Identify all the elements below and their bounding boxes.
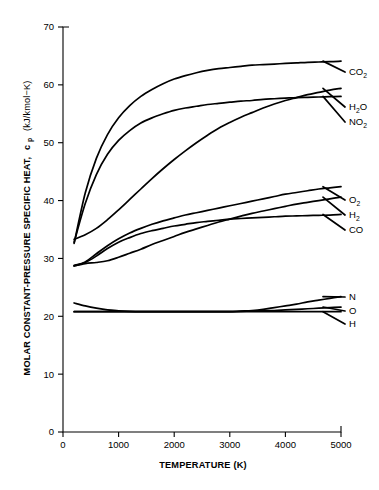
series-label-base: NO	[349, 116, 363, 127]
series-label-base: H	[349, 318, 356, 329]
leader-co	[323, 214, 345, 230]
series-leader-lines	[323, 61, 345, 324]
x-axis-title: TEMPERATURE (K)	[159, 460, 247, 470]
leader-h	[323, 312, 345, 324]
x-tick-label: 3000	[219, 439, 240, 450]
series-label-o: O	[349, 305, 356, 316]
curve-no2	[74, 96, 341, 242]
series-label-subscript: 2	[356, 200, 360, 207]
curve-h2	[74, 197, 341, 266]
series-label-base: CO	[349, 224, 363, 235]
series-label-co: CO	[349, 224, 363, 235]
svg-text:MOLAR CONSTANT-PRESSURE SPECIF: MOLAR CONSTANT-PRESSURE SPECIFIC HEAT, c…	[22, 81, 34, 376]
y-tick-label: 0	[49, 426, 54, 437]
series-label-no2: NO2	[349, 116, 367, 128]
data-curves	[74, 61, 341, 312]
x-tick-marks	[63, 432, 341, 437]
series-label-co2: CO2	[349, 66, 367, 78]
y-tick-label: 30	[43, 253, 54, 264]
chart-figure: 010203040506070 010002000300040005000 CO…	[0, 0, 379, 490]
series-label-h: H	[349, 318, 356, 329]
leader-co2	[323, 61, 345, 72]
leader-no2	[323, 96, 345, 122]
x-tick-label: 0	[60, 439, 65, 450]
series-label-h2: H2	[349, 209, 360, 221]
leader-h2o	[323, 88, 345, 107]
x-tick-labels: 010002000300040005000	[60, 439, 351, 450]
axes	[58, 27, 341, 437]
y-tick-label: 60	[43, 79, 54, 90]
molar-specific-heat-chart: 010203040506070 010002000300040005000 CO…	[0, 0, 379, 490]
curve-h2o	[74, 88, 341, 239]
series-label-base: O	[349, 194, 356, 205]
series-label-tail: O	[360, 101, 367, 112]
y-tick-labels: 010203040506070	[43, 21, 54, 437]
curve-o	[74, 303, 341, 312]
series-label-base: O	[349, 305, 356, 316]
y-axis-title: MOLAR CONSTANT-PRESSURE SPECIFIC HEAT, c…	[22, 81, 34, 376]
x-tick-label: 1000	[108, 439, 129, 450]
series-label-n: N	[349, 291, 356, 302]
series-labels: CO2H2ONO2O2H2CONOH	[349, 66, 367, 329]
x-tick-label: 2000	[164, 439, 185, 450]
x-tick-label: 5000	[330, 439, 351, 450]
y-axis-title-subscript: p	[26, 138, 34, 142]
y-tick-label: 40	[43, 195, 54, 206]
series-label-o2: O2	[349, 194, 360, 206]
leader-h2	[323, 197, 345, 215]
series-label-subscript: 2	[363, 72, 367, 79]
series-label-base: CO	[349, 66, 363, 77]
y-tick-label: 70	[43, 21, 54, 32]
y-tick-label: 50	[43, 137, 54, 148]
y-axis-title-main: MOLAR CONSTANT-PRESSURE SPECIFIC HEAT,	[22, 157, 32, 376]
series-label-subscript: 2	[363, 122, 367, 129]
y-tick-label: 10	[43, 369, 54, 380]
series-label-subscript: 2	[356, 215, 360, 222]
y-tick-label: 20	[43, 311, 54, 322]
y-tick-marks	[58, 27, 63, 432]
y-axis-title-units: (kJ/kmol−K)	[22, 81, 32, 131]
series-label-base: N	[349, 291, 356, 302]
x-tick-label: 4000	[275, 439, 296, 450]
series-label-h2o: H2O	[349, 101, 367, 113]
axis-lines	[63, 27, 341, 432]
y-axis-title-symbol: c	[22, 145, 32, 150]
